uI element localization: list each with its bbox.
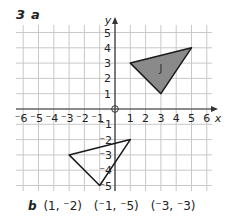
x-tick-label: ⁻4 [45,112,58,125]
part-b-label: b [28,199,37,213]
y-tick-label: 3 [104,57,111,70]
x-tick-label: 2 [142,112,149,125]
x-tick-label: 4 [173,112,180,125]
triangle-label: J [158,62,162,75]
x-tick-label: ⁻2 [76,112,89,125]
y-tick-label: 2 [104,72,111,85]
x-axis-label: x [214,112,222,125]
y-tick-label: 5 [104,27,111,40]
answer-point-2: (⁻1, ⁻5) [94,199,139,213]
x-tick-label: ⁻6 [15,112,28,125]
y-tick-label: ⁻3 [99,149,112,162]
x-tick-label: 6 [203,112,210,125]
x-tick-label: 1 [127,112,134,125]
y-tick-label: 4 [104,42,111,55]
y-tick-label: ⁻1 [99,118,112,131]
answer-point-3: (⁻3, ⁻3) [151,199,196,213]
x-tick-label: 5 [188,112,195,125]
x-tick-label: ⁻3 [61,112,74,125]
y-tick-label: ⁻5 [99,180,112,193]
coordinate-grid: xy⁻6⁻5⁻4⁻3⁻2⁻112345612345⁻1⁻2⁻3⁻4⁻5J [0,0,231,221]
x-tick-label: 3 [157,112,164,125]
y-tick-label: 1 [104,88,111,101]
y-axis-arrow-icon [112,17,118,24]
x-tick-label: ⁻5 [30,112,43,125]
answer-point-1: (1, ⁻2) [43,199,82,213]
part-b-answer: b (1, ⁻2) (⁻1, ⁻5) (⁻3, ⁻3) [28,199,204,213]
y-axis-label: y [104,14,112,27]
